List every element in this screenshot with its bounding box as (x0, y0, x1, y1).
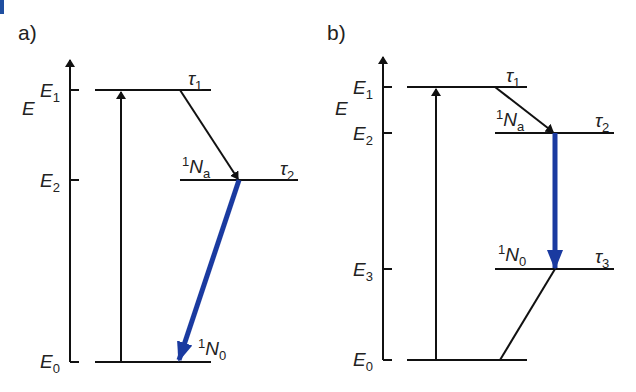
corner-mark (0, 0, 4, 14)
axis-label: E (22, 98, 35, 119)
level-label-e1: E1 (40, 80, 60, 105)
relaxation-line (500, 269, 555, 360)
level-label-e3: E3 (353, 259, 373, 284)
population-label-na: 1Na (496, 107, 525, 134)
panel-a-label: a) (18, 21, 37, 44)
population-label-n0: 1N0 (198, 336, 226, 363)
population-label-n0: 1N0 (498, 242, 526, 269)
population-label-na: 1Na (182, 154, 211, 181)
level-label-e2: E2 (353, 123, 373, 148)
tau-label-3: τ3 (595, 246, 609, 271)
panel-a: a) E E1 E2 E0 τ1 τ2 1Na 1N0 (18, 21, 298, 376)
panel-b-label: b) (327, 21, 346, 44)
level-label-e1: E1 (353, 77, 373, 102)
energy-level-diagram: a) E E1 E2 E0 τ1 τ2 1Na 1N0 b) E (0, 0, 636, 392)
axis-label: E (335, 98, 348, 119)
level-label-e0: E0 (40, 351, 60, 376)
level-label-e2: E2 (40, 170, 60, 195)
panel-b: b) E E1 E2 E3 E0 τ1 τ2 τ3 1Na 1N0 (327, 21, 614, 374)
tau-label-2: τ2 (595, 110, 609, 135)
laser-transition-arrow (179, 180, 239, 360)
level-label-e0: E0 (353, 349, 373, 374)
